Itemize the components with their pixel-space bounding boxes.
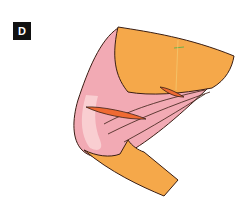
anatomical-illustration bbox=[0, 0, 251, 208]
outer-layer-top bbox=[115, 27, 234, 94]
